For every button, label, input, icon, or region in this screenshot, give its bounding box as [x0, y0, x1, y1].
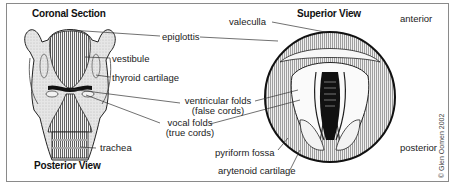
epiglottis-label: epiglottis [162, 32, 200, 42]
vocal-folds-label: vocal folds (true cords) [160, 118, 220, 138]
vestibule-label: vestibule [112, 54, 150, 64]
larynx-illustration [0, 0, 451, 186]
copyright-notice: © Glen Oomen 2002 [438, 114, 445, 178]
ventricular-folds-alias: (false cords) [178, 106, 258, 116]
vocal-folds-alias: (true cords) [160, 128, 220, 138]
thyroid-cartilage-label: thyroid cartilage [112, 73, 179, 83]
ventricular-folds-label: ventricular folds (false cords) [178, 96, 258, 116]
coronal-section-drawing [25, 30, 116, 161]
coronal-section-title: Coronal Section [32, 8, 106, 19]
superior-view-title: Superior View [297, 8, 361, 19]
valeculla-label: valeculla [229, 17, 266, 27]
anterior-label: anterior [400, 14, 432, 24]
arytenoid-cartilage-label: arytenoid cartilage [218, 166, 296, 176]
posterior-label: posterior [400, 143, 437, 153]
posterior-view-title: Posterior View [34, 160, 101, 171]
trachea-label: trachea [100, 143, 132, 153]
pyriform-fossa-label: pyriform fossa [215, 148, 275, 158]
